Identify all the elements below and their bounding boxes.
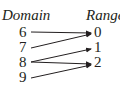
arrow-8-to-2 [31,62,91,64]
arrow-9-to-2 [31,65,91,78]
arrow-7-to-0 [31,34,91,48]
arrow-8-to-1 [31,49,91,62]
mapping-arrows [0,0,120,91]
arrow-6-to-0 [31,32,91,33]
